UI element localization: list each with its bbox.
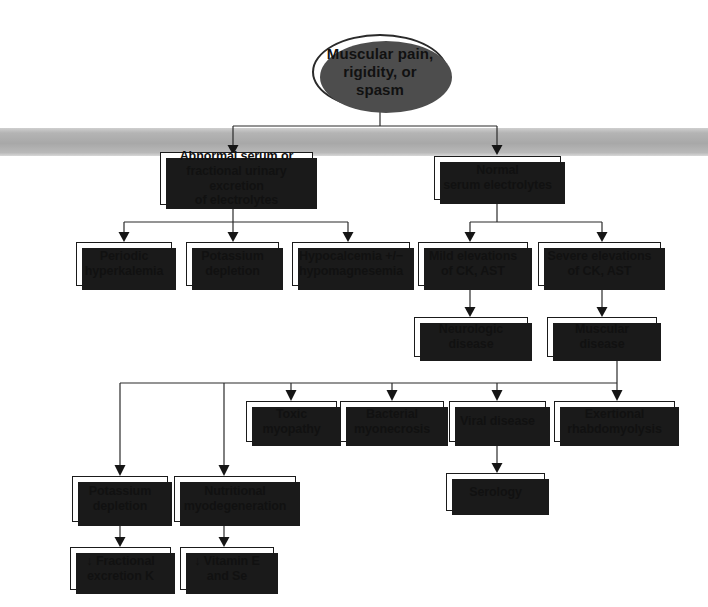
- node-abnormal-electrolytes[interactable]: Abnormal serum orfractional urinary excr…: [160, 152, 313, 205]
- node-label: Potassiumdepletion: [85, 484, 155, 514]
- node-label: Bacterialmyonecrosis: [350, 407, 434, 437]
- node-periodic-hyperkalemia[interactable]: Periodichyperkalemia: [76, 242, 172, 286]
- node-nutritional-myodegeneration[interactable]: Nutritionalmyodegeneration: [174, 476, 296, 522]
- node-label: Exertionalrhabdomyolysis: [563, 407, 665, 437]
- node-label: ↓ Vitamin Eand Se: [190, 554, 263, 584]
- node-root-muscular-pain[interactable]: Muscular pain,rigidity, orspasm: [312, 34, 448, 110]
- node-serology[interactable]: Serology: [446, 473, 545, 511]
- node-vitamin-e-se[interactable]: ↓ Vitamin Eand Se: [180, 547, 274, 590]
- node-mild-elevations[interactable]: Mild elevationsof CK, AST: [418, 242, 528, 286]
- node-label: Periodichyperkalemia: [81, 249, 168, 279]
- scan-artifact-band: [0, 128, 708, 156]
- node-fractional-excretion-k[interactable]: ↓ Fractionalexcretion K: [70, 547, 171, 590]
- node-muscular-disease[interactable]: Muscular disease: [547, 317, 657, 357]
- flowchart-canvas: Muscular pain,rigidity, orspasm Abnormal…: [0, 0, 708, 607]
- node-label: Serology: [465, 485, 526, 500]
- node-exertional-rhabdomyolysis[interactable]: Exertionalrhabdomyolysis: [554, 401, 675, 442]
- node-neurologic-disease[interactable]: Neurologic disease: [414, 317, 528, 357]
- node-label: Hypocalcemia +/−hypomagnesemia: [295, 249, 407, 279]
- node-label: Normalserum electrolytes: [439, 163, 556, 193]
- node-label: ↓ Fractionalexcretion K: [82, 554, 158, 584]
- node-label: Neurologic disease: [415, 322, 527, 352]
- node-viral-disease[interactable]: Viral disease: [449, 401, 546, 442]
- node-potassium-depletion-upper[interactable]: Potassiumdepletion: [186, 242, 279, 286]
- node-severe-elevations[interactable]: Severe elevationsof CK, AST: [538, 242, 661, 286]
- node-toxic-myopathy[interactable]: Toxicmyopathy: [246, 401, 337, 442]
- node-label: Nutritionalmyodegeneration: [180, 484, 291, 514]
- node-label: Abnormal serum orfractional urinary excr…: [161, 149, 312, 208]
- node-label: Muscular pain,rigidity, orspasm: [323, 45, 437, 98]
- node-hypocalcemia-hypomagnesemia[interactable]: Hypocalcemia +/−hypomagnesemia: [292, 242, 410, 286]
- node-bacterial-myonecrosis[interactable]: Bacterialmyonecrosis: [340, 401, 444, 442]
- node-label: Severe elevationsof CK, AST: [544, 249, 656, 279]
- node-label: Mild elevationsof CK, AST: [425, 249, 521, 279]
- node-label: Potassiumdepletion: [197, 249, 267, 279]
- node-label: Viral disease: [456, 414, 539, 429]
- node-label: Muscular disease: [548, 322, 656, 352]
- node-label: Toxicmyopathy: [258, 407, 324, 437]
- node-potassium-depletion-lower[interactable]: Potassiumdepletion: [72, 476, 168, 522]
- node-normal-electrolytes[interactable]: Normalserum electrolytes: [434, 156, 561, 200]
